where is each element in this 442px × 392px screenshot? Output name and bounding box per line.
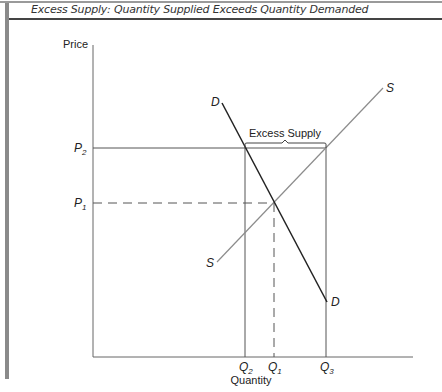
supply-curve — [217, 88, 383, 262]
excess-supply-bracket — [245, 140, 326, 148]
q3-label: Q3 — [320, 360, 334, 376]
supply-demand-diagram: Price Quantity Excess Supply P2 P1 Q2 Q1… — [0, 0, 442, 392]
p2-label: P2 — [74, 141, 87, 157]
q2-label: Q2 — [239, 360, 253, 376]
demand-label-top: D — [211, 95, 220, 109]
p1-label: P1 — [74, 196, 86, 212]
supply-label-top: S — [386, 81, 394, 95]
excess-supply-label: Excess Supply — [249, 127, 322, 139]
q1-label: Q1 — [268, 360, 282, 376]
supply-label-bottom: S — [206, 256, 214, 270]
y-axis-label: Price — [63, 38, 88, 50]
demand-label-bottom: D — [331, 295, 340, 309]
